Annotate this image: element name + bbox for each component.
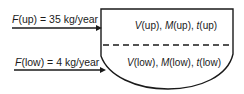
upper-layer-label: V(up), M(up), t(up) — [126, 20, 226, 32]
inflow-up-label: F(up) = 35 kg/year — [12, 13, 98, 25]
inflow-low-label: F(low) = 4 kg/year — [15, 56, 99, 68]
lower-layer-label: V(low), M(low), t(low) — [118, 57, 230, 69]
arrow-up-inflow — [12, 25, 102, 31]
